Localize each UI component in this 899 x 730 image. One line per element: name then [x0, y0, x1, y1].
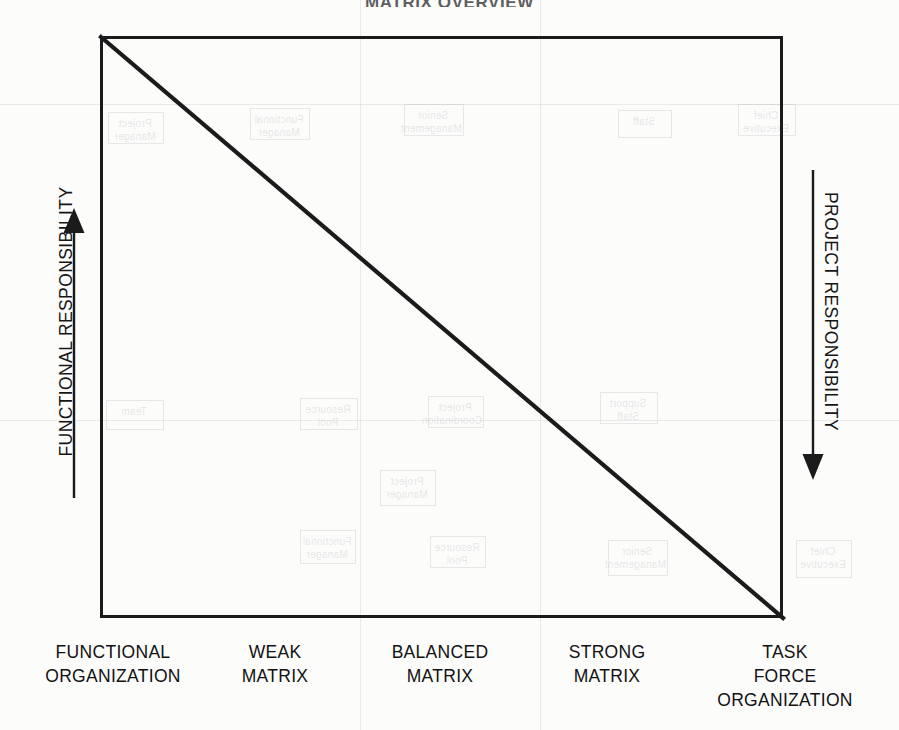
x-axis-label-group: FUNCTIONAL ORGANIZATION WEAK MATRIX BALA… — [0, 640, 899, 730]
x-label-functional-organization: FUNCTIONAL ORGANIZATION — [45, 640, 181, 688]
page-title: MATRIX OVERVIEW — [0, 0, 899, 7]
arrow-up-icon — [62, 170, 86, 500]
left-axis-group: FUNCTIONAL RESPONSIBILITY — [22, 36, 100, 618]
arrow-down-icon — [801, 168, 825, 488]
chart-plot-frame — [100, 36, 783, 618]
x-label-balanced-matrix: BALANCED MATRIX — [392, 640, 489, 688]
x-label-weak-matrix: WEAK MATRIX — [242, 640, 309, 688]
x-label-task-force-organization: TASK FORCE ORGANIZATION — [717, 640, 853, 712]
x-label-strong-matrix: STRONG MATRIX — [569, 640, 646, 688]
right-axis-group: PROJECT RESPONSIBILITY — [790, 36, 890, 618]
